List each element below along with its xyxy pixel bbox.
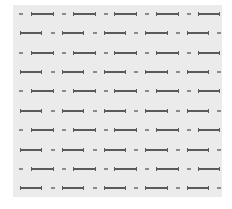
short-dash-segment	[176, 71, 180, 73]
short-dash-segment	[134, 149, 138, 151]
long-line-segment	[198, 129, 220, 131]
short-dash-segment	[187, 129, 191, 131]
long-line-segment	[114, 129, 137, 131]
long-line-segment	[145, 110, 168, 112]
long-line-segment	[73, 168, 96, 170]
short-dash-segment	[187, 90, 191, 92]
long-line-segment	[62, 149, 84, 151]
long-line-segment	[73, 129, 96, 131]
long-line-segment	[20, 71, 42, 73]
short-dash-segment	[51, 110, 55, 112]
long-line-segment	[198, 168, 220, 170]
long-line-segment	[31, 90, 54, 92]
long-line-segment	[156, 52, 179, 54]
short-dash-segment	[104, 13, 108, 15]
long-line-segment	[20, 110, 42, 112]
long-line-segment	[31, 13, 54, 15]
long-line-segment	[31, 52, 54, 54]
short-dash-segment	[93, 110, 97, 112]
long-line-segment	[104, 110, 126, 112]
long-line-segment	[104, 32, 126, 34]
long-line-segment	[187, 187, 209, 189]
short-dash-segment	[19, 90, 23, 92]
short-dash-segment	[104, 90, 108, 92]
short-dash-segment	[62, 168, 66, 170]
short-dash-segment	[217, 149, 221, 151]
short-dash-segment	[51, 187, 55, 189]
short-dash-segment	[51, 71, 55, 73]
short-dash-segment	[176, 187, 180, 189]
short-dash-segment	[134, 110, 138, 112]
short-dash-segment	[145, 52, 149, 54]
long-line-segment	[31, 129, 54, 131]
long-line-segment	[145, 187, 168, 189]
short-dash-segment	[187, 168, 191, 170]
long-line-segment	[114, 90, 137, 92]
long-line-segment	[20, 187, 42, 189]
long-line-segment	[156, 90, 179, 92]
long-line-segment	[62, 110, 84, 112]
short-dash-segment	[217, 187, 221, 189]
short-dash-segment	[62, 129, 66, 131]
short-dash-segment	[176, 32, 180, 34]
short-dash-segment	[62, 52, 66, 54]
short-dash-segment	[217, 71, 221, 73]
short-dash-segment	[62, 90, 66, 92]
short-dash-segment	[51, 149, 55, 151]
long-line-segment	[187, 71, 209, 73]
short-dash-segment	[187, 13, 191, 15]
long-line-segment	[104, 71, 126, 73]
long-line-segment	[104, 149, 126, 151]
long-line-segment	[73, 52, 96, 54]
long-line-segment	[62, 71, 84, 73]
long-line-segment	[31, 168, 54, 170]
long-line-segment	[187, 149, 209, 151]
short-dash-segment	[19, 129, 23, 131]
short-dash-segment	[104, 168, 108, 170]
long-line-segment	[20, 149, 42, 151]
short-dash-segment	[145, 13, 149, 15]
long-line-segment	[145, 71, 168, 73]
short-dash-segment	[93, 71, 97, 73]
short-dash-segment	[176, 110, 180, 112]
short-dash-segment	[62, 13, 66, 15]
short-dash-segment	[19, 168, 23, 170]
short-dash-segment	[145, 90, 149, 92]
short-dash-segment	[217, 110, 221, 112]
long-line-segment	[62, 187, 84, 189]
long-line-segment	[156, 168, 179, 170]
long-line-segment	[104, 187, 126, 189]
short-dash-segment	[145, 129, 149, 131]
long-line-segment	[20, 32, 42, 34]
short-dash-segment	[176, 149, 180, 151]
long-line-segment	[114, 168, 137, 170]
short-dash-segment	[134, 71, 138, 73]
short-dash-segment	[51, 32, 55, 34]
long-line-segment	[198, 52, 220, 54]
short-dash-segment	[104, 129, 108, 131]
short-dash-segment	[187, 52, 191, 54]
long-line-segment	[73, 13, 96, 15]
long-line-segment	[198, 90, 220, 92]
long-line-segment	[145, 32, 168, 34]
long-line-segment	[156, 129, 179, 131]
short-dash-segment	[93, 187, 97, 189]
long-line-segment	[187, 32, 209, 34]
short-dash-segment	[104, 52, 108, 54]
long-line-segment	[187, 110, 209, 112]
short-dash-segment	[145, 168, 149, 170]
long-line-segment	[114, 52, 137, 54]
long-line-segment	[156, 13, 179, 15]
long-line-segment	[145, 149, 168, 151]
short-dash-segment	[134, 187, 138, 189]
short-dash-segment	[19, 13, 23, 15]
short-dash-segment	[93, 149, 97, 151]
short-dash-segment	[93, 32, 97, 34]
long-line-segment	[198, 13, 220, 15]
long-line-segment	[62, 32, 84, 34]
short-dash-segment	[134, 32, 138, 34]
long-line-segment	[73, 90, 96, 92]
short-dash-segment	[19, 52, 23, 54]
long-line-segment	[114, 13, 137, 15]
short-dash-segment	[217, 32, 221, 34]
